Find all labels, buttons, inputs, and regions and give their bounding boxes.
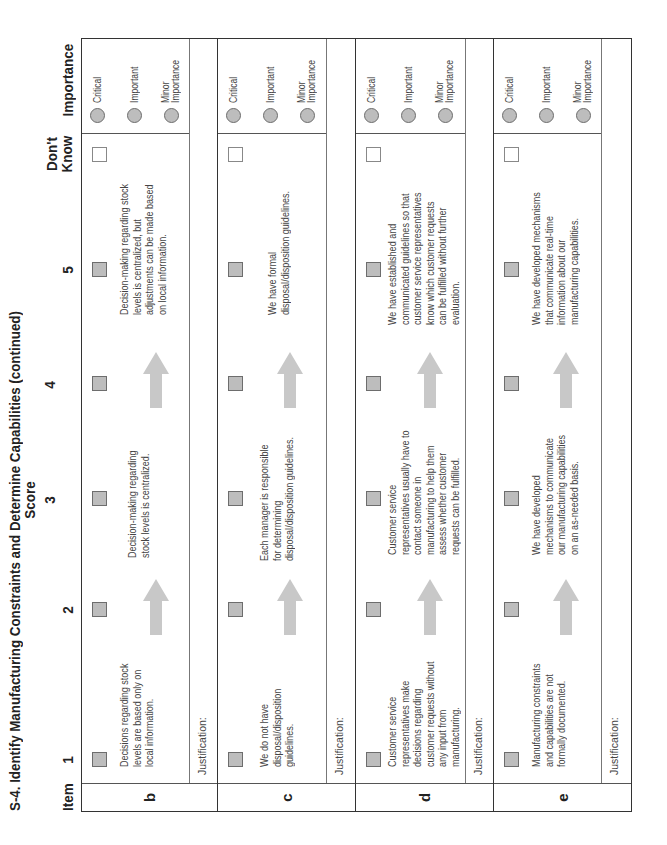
- item-label: b: [82, 783, 217, 811]
- radio-label: Critical: [93, 77, 103, 103]
- header-dont-know-line1: Don't: [44, 132, 59, 177]
- arrow-right-icon: [143, 579, 169, 635]
- desc-line: Decision-making regarding: [126, 451, 139, 558]
- desc-line: mechanisms to communicate: [543, 435, 556, 555]
- desc-line: assess whether customer: [436, 431, 449, 555]
- desc-line: customer service representatives: [411, 193, 424, 325]
- importance-important-radio[interactable]: Important: [127, 61, 142, 123]
- score-checkbox-2[interactable]: [504, 602, 519, 617]
- table-row-b: b Decisions regarding stock levels are b…: [82, 39, 217, 811]
- score-checkbox-1[interactable]: [366, 752, 381, 767]
- page-title: S-4. Identify Manufacturing Constraints …: [6, 311, 24, 811]
- score-checkbox-4[interactable]: [92, 376, 107, 391]
- desc-line: Customer service: [386, 431, 399, 555]
- desc-line: manufacturing.: [449, 662, 462, 767]
- score-checkbox-2[interactable]: [92, 602, 107, 617]
- importance-important-radio[interactable]: Important: [263, 61, 278, 123]
- desc-line: and capabilities are not: [543, 664, 556, 767]
- importance-critical-radio[interactable]: Critical: [90, 72, 105, 123]
- importance-minor-radio[interactable]: MinorImportance: [435, 53, 455, 123]
- radio-label: MinorImportance: [161, 60, 181, 103]
- score-checkbox-1[interactable]: [504, 752, 519, 767]
- desc-line: information about our: [555, 192, 568, 325]
- score-checkbox-4[interactable]: [228, 376, 243, 391]
- desc-line: We have established and: [386, 193, 399, 325]
- header-score-4: 4: [42, 376, 57, 394]
- item-label: c: [218, 783, 355, 811]
- importance-important-radio[interactable]: Important: [539, 61, 554, 123]
- score-checkbox-1[interactable]: [92, 752, 107, 767]
- header-importance: Importance: [60, 35, 75, 125]
- importance-critical-radio[interactable]: Critical: [226, 72, 241, 123]
- importance-minor-radio[interactable]: MinorImportance: [161, 53, 181, 123]
- level-mid-description: Decision-making regarding stock levels i…: [126, 451, 151, 558]
- radio-label-line: Importance: [306, 60, 317, 103]
- score-checkbox-5[interactable]: [92, 262, 107, 277]
- justification-field[interactable]: Justification:: [326, 39, 355, 783]
- desc-line: evaluation.: [449, 193, 462, 325]
- radio-label: Critical: [505, 77, 515, 103]
- level-high-description: We have formal disposal/disposition guid…: [266, 191, 291, 315]
- importance-minor-radio[interactable]: MinorImportance: [573, 53, 593, 123]
- desc-line: any input from: [436, 662, 449, 767]
- score-area: Customer service representatives make de…: [356, 133, 466, 783]
- importance-critical-radio[interactable]: Critical: [364, 72, 379, 123]
- table-row-e: e Manufacturing constraints and capabili…: [493, 39, 631, 811]
- header-score-2: 2: [60, 601, 75, 619]
- score-checkbox-3[interactable]: [92, 491, 107, 506]
- score-checkbox-2[interactable]: [366, 602, 381, 617]
- dont-know-checkbox[interactable]: [504, 147, 519, 162]
- score-checkbox-5[interactable]: [504, 262, 519, 277]
- desc-line: Decision-making regarding stock: [118, 184, 131, 315]
- header-score-1: 1: [60, 751, 75, 769]
- desc-line: levels is centralized, but: [131, 184, 144, 315]
- score-area: We do not have disposal/disposition guid…: [218, 133, 327, 783]
- desc-line: can be fulfilled without further: [436, 193, 449, 325]
- importance-critical-radio[interactable]: Critical: [502, 72, 517, 123]
- score-checkbox-3[interactable]: [228, 491, 243, 506]
- radio-label-line: Importance: [444, 60, 455, 103]
- importance-minor-radio[interactable]: MinorImportance: [297, 53, 317, 123]
- dont-know-checkbox[interactable]: [228, 147, 243, 162]
- score-checkbox-2[interactable]: [228, 602, 243, 617]
- score-checkbox-4[interactable]: [366, 376, 381, 391]
- radio-circle-icon: [300, 108, 315, 123]
- score-checkbox-5[interactable]: [366, 262, 381, 277]
- score-checkbox-1[interactable]: [228, 752, 243, 767]
- importance-important-radio[interactable]: Important: [401, 61, 416, 123]
- desc-line: manufacturing to help them: [424, 431, 437, 555]
- desc-line: stock levels is centralized.: [139, 451, 152, 558]
- score-checkbox-5[interactable]: [228, 262, 243, 277]
- score-checkbox-4[interactable]: [504, 376, 519, 391]
- level-mid-description: We have developed mechanisms to communic…: [530, 435, 580, 555]
- header-score-5: 5: [60, 261, 75, 279]
- radio-label: Important: [130, 67, 140, 103]
- desc-line: on local information.: [156, 184, 169, 315]
- justification-field[interactable]: Justification:: [601, 39, 631, 783]
- desc-line: adjustments can be made based: [143, 184, 156, 315]
- item-label: d: [356, 783, 493, 811]
- radio-label: Important: [266, 67, 276, 103]
- desc-line: disposal/disposition guidelines.: [283, 437, 296, 561]
- dont-know-checkbox[interactable]: [92, 147, 107, 162]
- score-checkbox-3[interactable]: [504, 491, 519, 506]
- justification-field[interactable]: Justification:: [189, 39, 217, 783]
- desc-line: Customer service: [386, 662, 399, 767]
- arrow-right-icon: [277, 579, 303, 635]
- score-checkbox-3[interactable]: [366, 491, 381, 506]
- header-dont-know-line2: Know: [59, 132, 74, 177]
- dont-know-checkbox[interactable]: [366, 147, 381, 162]
- desc-line: customer requests without: [424, 662, 437, 767]
- radio-label: MinorImportance: [573, 60, 593, 103]
- level-low-description: Customer service representatives make de…: [386, 662, 461, 767]
- justification-field[interactable]: Justification:: [465, 39, 493, 783]
- level-low-description: Decisions regarding stock levels are bas…: [118, 664, 156, 767]
- header-score-3: 3: [42, 491, 57, 509]
- radio-label: MinorImportance: [435, 60, 455, 103]
- radio-circle-icon: [364, 108, 379, 123]
- arrow-right-icon: [277, 352, 303, 408]
- level-mid-description: Each manager is responsible for determin…: [258, 437, 296, 561]
- header-score: Score: [22, 460, 37, 541]
- score-area: Decisions regarding stock levels are bas…: [82, 133, 189, 783]
- arrow-right-icon: [417, 352, 443, 408]
